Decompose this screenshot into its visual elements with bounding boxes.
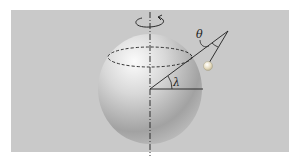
theta-label: θ bbox=[196, 28, 203, 41]
foucault-pendulum-diagram: λ θ bbox=[0, 0, 294, 160]
pendulum-bob bbox=[204, 62, 213, 71]
latitude-label: λ bbox=[172, 76, 180, 89]
